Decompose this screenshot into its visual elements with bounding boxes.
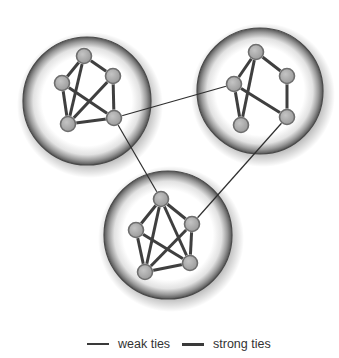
node: [280, 110, 295, 125]
node: [154, 192, 169, 207]
node: [249, 45, 264, 60]
weak-tie-line-icon: [87, 343, 109, 345]
node: [280, 69, 295, 84]
strong-tie-line-icon: [182, 343, 204, 346]
node: [183, 256, 198, 271]
node: [55, 76, 70, 91]
legend-strong-label: strong ties: [213, 337, 271, 351]
node: [77, 49, 92, 64]
node: [129, 223, 144, 238]
node: [106, 69, 121, 84]
legend-weak-label: weak ties: [118, 337, 170, 351]
node: [234, 118, 249, 133]
node: [227, 77, 242, 92]
node: [61, 117, 76, 132]
node: [138, 265, 153, 280]
cluster-bottom: [104, 171, 232, 299]
node: [185, 217, 200, 232]
legend-weak-ties: weak ties: [87, 333, 170, 355]
legend: weak ties strong ties: [0, 333, 339, 355]
node: [107, 111, 122, 126]
network-diagram: [0, 0, 339, 358]
legend-strong-ties: strong ties: [182, 333, 271, 355]
